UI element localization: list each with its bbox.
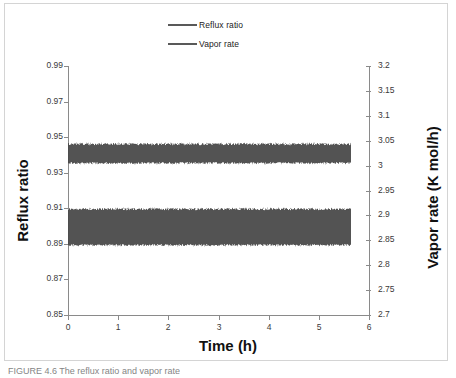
figure-caption: FIGURE 4.6 The reflux ratio and vapor ra… (8, 366, 448, 378)
x-tick-label: 6 (354, 322, 384, 332)
figure-container: Reflux ratio Vapor rate Reflux ratio Vap… (0, 0, 456, 378)
y-right-tick-label: 2.7 (378, 309, 418, 319)
y-right-tick (366, 166, 371, 167)
y-left-tick-label: 0.85 (23, 309, 63, 319)
y-right-axis-title: Vapor rate (K mol/h) (418, 95, 446, 300)
y-right-tick-label: 2.85 (378, 234, 418, 244)
y-left-tick (64, 66, 69, 67)
legend-label-reflux-ratio: Reflux ratio (199, 20, 243, 30)
y-right-tick-label: 2.75 (378, 284, 418, 294)
series-band-vapor-rate (68, 142, 351, 165)
chart-legend: Reflux ratio Vapor rate (168, 15, 318, 53)
y-right-tick (366, 66, 371, 67)
y-left-tick (64, 102, 69, 103)
y-right-tick (366, 91, 371, 92)
y-right-tick (366, 191, 371, 192)
x-tick (118, 315, 119, 320)
y-left-tick-label: 0.91 (23, 202, 63, 212)
x-tick (168, 315, 169, 320)
y-right-tick-label: 3 (378, 160, 418, 170)
y-left-tick (64, 173, 69, 174)
x-tick (219, 315, 220, 320)
y-right-axis-title-text: Vapor rate (K mol/h) (424, 126, 441, 269)
y-left-axis-title: Reflux ratio (9, 120, 35, 280)
plot-area: 0.850.870.890.910.930.950.970.99 2.72.75… (68, 66, 370, 316)
y-left-tick-label: 0.87 (23, 273, 63, 283)
y-right-tick-label: 2.8 (378, 259, 418, 269)
y-right-tick-label: 3.15 (378, 85, 418, 95)
x-tick (319, 315, 320, 320)
y-left-tick-label: 0.99 (23, 60, 63, 70)
y-left-tick (64, 137, 69, 138)
y-left-tick-label: 0.97 (23, 96, 63, 106)
x-tick (369, 315, 370, 320)
y-right-tick (366, 240, 371, 241)
legend-line-icon-reflux-ratio (168, 24, 197, 26)
legend-item-vapor-rate: Vapor rate (168, 34, 318, 53)
y-left-tick-label: 0.95 (23, 131, 63, 141)
y-left-tick-label: 0.89 (23, 238, 63, 248)
y-right-tick (366, 215, 371, 216)
y-left-tick (64, 279, 69, 280)
legend-label-vapor-rate: Vapor rate (199, 39, 239, 49)
x-tick-label: 2 (153, 322, 183, 332)
y-right-tick-label: 3.05 (378, 135, 418, 145)
x-tick-label: 4 (254, 322, 284, 332)
x-tick-label: 0 (53, 322, 83, 332)
legend-item-reflux-ratio: Reflux ratio (168, 15, 318, 34)
y-right-tick (366, 116, 371, 117)
x-tick-label: 5 (304, 322, 334, 332)
x-axis-title: Time (h) (0, 337, 456, 354)
x-tick (68, 315, 69, 320)
y-right-tick-label: 2.95 (378, 185, 418, 195)
x-tick-label: 3 (204, 322, 234, 332)
y-right-tick-label: 2.9 (378, 209, 418, 219)
x-tick (269, 315, 270, 320)
x-tick-label: 1 (103, 322, 133, 332)
series-noise-canvas (68, 207, 351, 247)
y-right-tick (366, 141, 371, 142)
legend-line-icon-vapor-rate (168, 43, 197, 45)
series-band-reflux-ratio (68, 207, 351, 247)
series-noise-canvas (68, 142, 351, 165)
y-right-tick-label: 3.2 (378, 60, 418, 70)
y-right-tick-label: 3.1 (378, 110, 418, 120)
y-right-tick (366, 265, 371, 266)
y-left-tick-label: 0.93 (23, 167, 63, 177)
y-right-tick (366, 290, 371, 291)
plot-background (68, 66, 370, 316)
